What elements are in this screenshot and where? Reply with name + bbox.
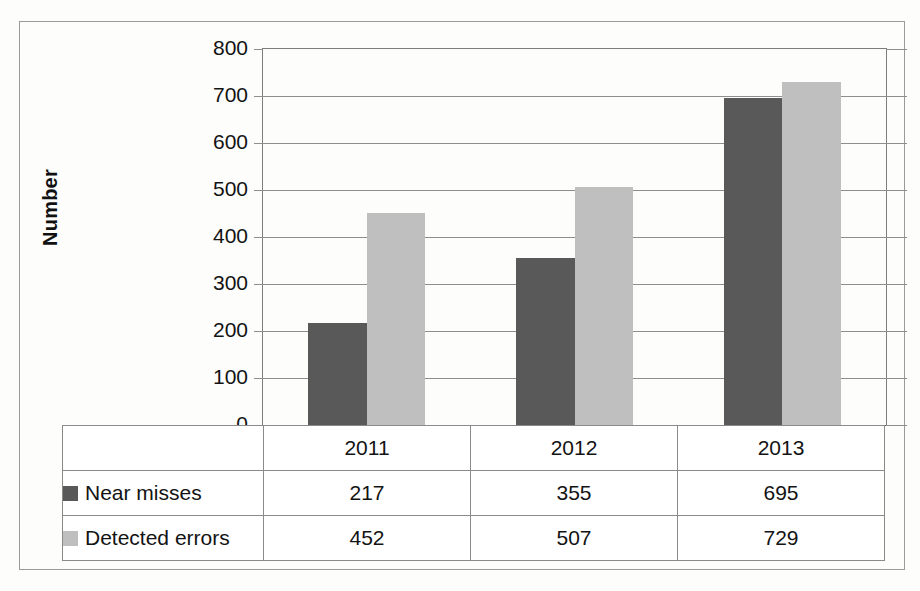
y-axis-tick-mark (254, 49, 263, 50)
legend-entry-near-misses: Near misses (63, 471, 264, 516)
y-axis-tick-label: 800 (166, 37, 248, 58)
table-cell-2011-detected-errors: 452 (264, 516, 471, 561)
bar-2012-near-misses (516, 258, 575, 425)
y-axis-tick-label: 500 (166, 178, 248, 199)
y-axis-tick-mark (254, 96, 263, 97)
data-table-body: 201120122013Near misses217355695Detected… (63, 426, 885, 561)
y-axis-tick-mark (254, 143, 263, 144)
table-cell-2012-detected-errors: 507 (471, 516, 678, 561)
y-axis-tick-mark (886, 425, 907, 426)
y-axis-tick-mark (886, 378, 907, 379)
bar-2012-detected-errors (575, 187, 634, 425)
y-axis-tick-mark (886, 237, 907, 238)
y-axis-tick-label: 700 (166, 84, 248, 105)
y-axis-tick-label: 100 (166, 366, 248, 387)
legend-swatch-icon (63, 531, 78, 546)
y-axis-tick-mark (254, 331, 263, 332)
table-header-2013: 2013 (678, 426, 885, 471)
y-axis-tick-mark (886, 284, 907, 285)
y-axis-tick-label: 600 (166, 131, 248, 152)
legend-swatch-icon (63, 486, 78, 501)
y-axis-tick-label: 200 (166, 319, 248, 340)
y-axis-tick-mark (254, 378, 263, 379)
table-row: Detected errors452507729 (63, 516, 885, 561)
table-corner-cell (63, 426, 264, 471)
bar-2013-near-misses (724, 98, 783, 425)
y-axis-tick-mark (254, 284, 263, 285)
bar-2013-detected-errors (782, 82, 841, 425)
table-row: Near misses217355695 (63, 471, 885, 516)
plot-area (262, 48, 887, 425)
y-axis-tick-label: 300 (166, 272, 248, 293)
table-header-2012: 2012 (471, 426, 678, 471)
legend-label: Near misses (85, 481, 202, 505)
legend-entry-detected-errors: Detected errors (63, 516, 264, 561)
table-cell-2013-detected-errors: 729 (678, 516, 885, 561)
chart-figure: Number 8007006005004003002001000 2011201… (0, 0, 920, 591)
y-axis-tick-mark (886, 331, 907, 332)
table-header-2011: 2011 (264, 426, 471, 471)
bar-2011-detected-errors (367, 213, 426, 425)
legend-label: Detected errors (85, 526, 230, 550)
y-axis-tick-mark (254, 237, 263, 238)
chart-data-table: 201120122013Near misses217355695Detected… (62, 425, 885, 561)
y-axis-tick-mark (886, 190, 907, 191)
y-axis-tick-mark (886, 143, 907, 144)
y-axis-tick-mark (254, 190, 263, 191)
y-axis-tick-mark (886, 96, 907, 97)
table-cell-2013-near-misses: 695 (678, 471, 885, 516)
y-axis-tick-mark (886, 49, 907, 50)
y-axis-tick-labels: 8007006005004003002001000 (166, 48, 248, 424)
y-axis-title: Number (39, 138, 62, 278)
table-cell-2012-near-misses: 355 (471, 471, 678, 516)
bar-2011-near-misses (308, 323, 367, 425)
y-axis-tick-label: 400 (166, 225, 248, 246)
table-cell-2011-near-misses: 217 (264, 471, 471, 516)
table-header-row: 201120122013 (63, 426, 885, 471)
